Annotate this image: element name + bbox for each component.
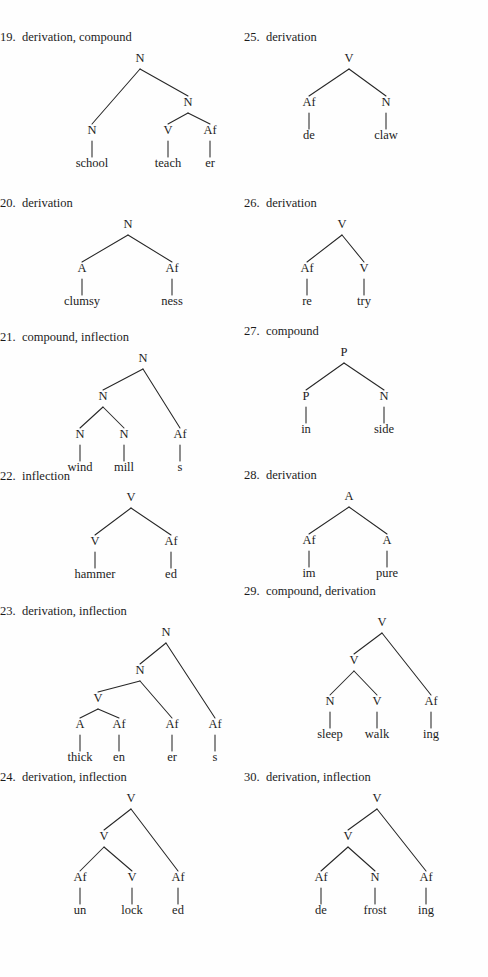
tree-branch xyxy=(330,671,354,695)
morphology-tree: NNAfNNwindmills xyxy=(0,344,244,474)
tree-node-label: Af xyxy=(300,261,314,275)
tree-node-label: V xyxy=(163,123,172,137)
morphology-tree: VVAfhammered xyxy=(0,483,244,601)
tree-node-label: Af xyxy=(314,870,328,884)
tree-leaf-word: side xyxy=(374,422,395,436)
tree-branch xyxy=(128,235,172,262)
tree-branch xyxy=(104,847,132,871)
morphology-tree: VAfNdeclaw xyxy=(244,44,488,162)
exercise-label: inflection xyxy=(22,469,70,483)
tree-node-label: A xyxy=(75,717,84,731)
exercise-label: derivation, compound xyxy=(22,30,132,44)
tree-node-label: N xyxy=(161,625,170,639)
tree-container: AAfAimpure xyxy=(244,482,488,600)
tree-node-label: V xyxy=(126,791,135,805)
morphology-tree: VAfVretry xyxy=(244,210,488,328)
exercise-heading: 19.derivation, compound xyxy=(0,30,132,44)
exercise-number: 19. xyxy=(0,30,22,44)
tree-leaf-word: ing xyxy=(423,727,440,741)
tree-node-label: V xyxy=(377,615,386,629)
tree-leaf-word: teach xyxy=(155,156,182,170)
tree-leaf-word: clumsy xyxy=(64,294,101,308)
tree-branch xyxy=(103,407,124,428)
tree-leaf-word: hammer xyxy=(75,567,117,581)
tree-node-label: Af xyxy=(165,261,179,275)
tree-leaf-word: im xyxy=(302,566,315,580)
tree-node-label: N xyxy=(138,351,147,365)
exercise-number: 28. xyxy=(244,468,266,482)
tree-node-label: N xyxy=(75,427,84,441)
tree-node-label: N xyxy=(183,95,192,109)
morphology-tree: PPNinside xyxy=(244,338,488,456)
tree-container: VAfNdeclaw xyxy=(244,44,488,162)
tree-node-label: N xyxy=(325,694,334,708)
exercise-label: derivation, inflection xyxy=(22,770,127,784)
exercise-label: derivation xyxy=(266,196,317,210)
tree-node-label: Af xyxy=(164,534,178,548)
tree-node-label: Af xyxy=(302,95,316,109)
tree-branch xyxy=(342,235,364,262)
tree-node-label: N xyxy=(135,51,144,65)
tree-leaf-word: wind xyxy=(68,460,94,474)
morphology-tree: NNAfVAfAAfthickeners xyxy=(0,618,244,768)
exercise-heading: 20.derivation xyxy=(0,196,73,210)
tree-branch xyxy=(354,633,382,654)
tree-leaf-word: de xyxy=(315,903,327,917)
tree-container: NNNVAfschoolteacher xyxy=(0,44,244,194)
exercise-number: 27. xyxy=(244,324,266,338)
tree-node-label: V xyxy=(90,534,99,548)
exercise-heading: 25.derivation xyxy=(244,30,317,44)
exercise-number: 24. xyxy=(0,770,22,784)
tree-branch xyxy=(131,508,171,535)
exercise-number: 22. xyxy=(0,469,22,483)
exercise-heading: 26.derivation xyxy=(244,196,317,210)
exercise-number: 30. xyxy=(244,770,266,784)
tree-leaf-word: ed xyxy=(172,903,185,917)
tree-node-label: A xyxy=(382,533,391,547)
tree-container: VVAfNVsleepwalking xyxy=(244,598,488,743)
tree-leaf-word: s xyxy=(213,750,218,764)
tree-node-label: V xyxy=(337,217,346,231)
tree-branch xyxy=(140,69,188,96)
tree-leaf-word: ed xyxy=(165,567,178,581)
tree-branch xyxy=(349,69,386,96)
tree-node-label: Af xyxy=(208,717,222,731)
tree-node-label: V xyxy=(93,691,102,705)
morphology-tree: NAAfclumsyness xyxy=(0,210,244,328)
tree-branch xyxy=(309,69,349,96)
tree-leaf-word: walk xyxy=(365,727,390,741)
tree-node-label: N xyxy=(123,217,132,231)
tree-leaf-word: ing xyxy=(418,903,435,917)
tree-branch xyxy=(104,809,131,830)
exercise-heading: 24.derivation, inflection xyxy=(0,770,127,784)
tree-node-label: N xyxy=(98,389,107,403)
tree-branch xyxy=(131,809,178,871)
tree-leaf-word: claw xyxy=(374,128,398,142)
tree-node-label: N xyxy=(119,427,128,441)
textbook-page: 19.derivation, compoundNNNVAfschoolteach… xyxy=(0,0,488,977)
tree-branch xyxy=(306,363,344,390)
exercise-heading: 22.inflection xyxy=(0,469,70,483)
tree-container: VVAfAfNdefrosting xyxy=(244,784,488,929)
tree-node-label: V xyxy=(126,490,135,504)
tree-leaf-word: lock xyxy=(121,903,143,917)
exercise-heading: 21.compound, inflection xyxy=(0,330,129,344)
tree-branch xyxy=(92,69,140,124)
tree-branch xyxy=(140,681,172,718)
tree-container: NAAfclumsyness xyxy=(0,210,244,328)
tree-node-label: V xyxy=(372,694,381,708)
tree-node-label: P xyxy=(341,345,348,359)
tree-node-label: V xyxy=(359,261,368,275)
tree-leaf-word: in xyxy=(301,422,311,436)
tree-branch xyxy=(82,235,128,262)
tree-node-label: Af xyxy=(112,717,126,731)
tree-leaf-word: school xyxy=(76,156,109,170)
tree-container: VAfVretry xyxy=(244,210,488,328)
exercise-label: compound, derivation xyxy=(266,584,376,598)
tree-node-label: N xyxy=(135,663,144,677)
exercise-column-left: 19.derivation, compoundNNNVAfschoolteach… xyxy=(0,0,244,977)
tree-leaf-word: er xyxy=(205,156,216,170)
tree-leaf-word: frost xyxy=(364,903,387,917)
tree-leaf-word: un xyxy=(74,903,87,917)
tree-node-label: V xyxy=(99,829,108,843)
